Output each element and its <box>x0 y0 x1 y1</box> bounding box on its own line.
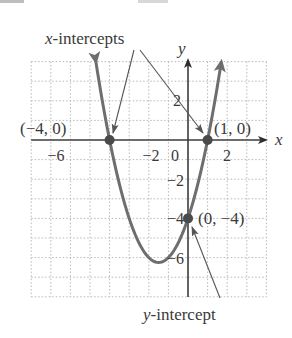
grid <box>31 62 266 297</box>
y-intercept-label: y-intercept <box>141 305 216 324</box>
x-tick-label: 0 <box>171 147 179 164</box>
x-tick-label: 2 <box>223 147 231 164</box>
y-intercept-arrow <box>192 227 220 298</box>
y-tick-label: 2 <box>173 92 181 109</box>
point-y-intercept <box>183 213 193 223</box>
y-tick-label: −6 <box>167 250 184 267</box>
point-x-intercept-right <box>203 135 213 145</box>
point-label-right: (1, 0) <box>214 119 251 138</box>
point-x-intercept-left <box>105 135 115 145</box>
point-label-left: (−4, 0) <box>20 119 66 138</box>
x-intercepts-label: x-intercepts <box>44 29 124 48</box>
y-tick-label: −4 <box>167 210 184 227</box>
y-tick-label: −2 <box>167 172 184 189</box>
y-axis-label: y <box>176 39 186 58</box>
x-tick-label: −2 <box>142 147 159 164</box>
point-label-y-intercept: (0, −4) <box>198 209 244 228</box>
parabola-graph: x-intercepts y-intercept x y (−4, 0) (1,… <box>0 0 292 338</box>
x-axis-label: x <box>274 130 283 149</box>
x-tick-label: −6 <box>47 147 64 164</box>
